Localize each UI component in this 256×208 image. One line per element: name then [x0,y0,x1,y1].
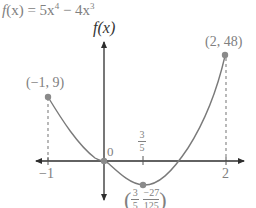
tick-label-neg1: −1 [39,166,54,182]
label-point-neg1-9: (−1, 9) [26,75,64,91]
tick-label-3-5: 35 [138,130,146,153]
point-neg1-9 [45,94,51,100]
function-curve [48,56,225,185]
label-point-2-48: (2, 48) [205,34,242,50]
label-origin: 0 [107,144,114,160]
label-point-min: ( 35 −27125 ) [124,188,167,208]
point-2-48 [222,52,228,58]
tick-label-2: 2 [222,166,229,182]
chart-title: f(x) = 5x4 − 4x3 [2,1,95,19]
y-axis-label: f(x) [93,19,115,37]
